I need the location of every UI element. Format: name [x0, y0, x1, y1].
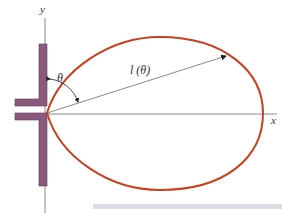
- caption-bar: [93, 204, 282, 209]
- antenna-upper-element: [15, 44, 47, 106]
- antenna-radiation-diagram: y x l (θ) θ: [0, 0, 282, 216]
- theta-label: θ: [57, 71, 63, 85]
- y-axis-label: y: [39, 3, 45, 15]
- radius-label: l (θ): [130, 63, 150, 77]
- x-axis-label: x: [270, 114, 276, 126]
- antenna-lower-element: [15, 113, 47, 186]
